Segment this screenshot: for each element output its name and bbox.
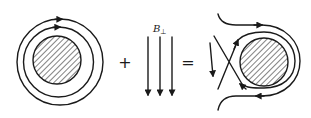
left-downward-field-line	[210, 43, 213, 76]
hatched-conductor-right	[240, 38, 288, 86]
right-panel-superposed-field	[210, 14, 300, 110]
field-superposition-diagram: + B⊥ =	[0, 0, 311, 118]
equals-operator: =	[181, 53, 194, 72]
hatched-conductor	[33, 36, 81, 84]
separatrix-up-arrow-icon	[234, 40, 238, 49]
field-label-main: B	[152, 23, 160, 34]
plus-operator: +	[118, 53, 131, 72]
left-panel-circular-field	[17, 19, 103, 105]
middle-panel-uniform-field: B⊥	[148, 23, 172, 95]
field-label: B⊥	[152, 23, 166, 36]
field-label-subscript: ⊥	[160, 28, 166, 36]
